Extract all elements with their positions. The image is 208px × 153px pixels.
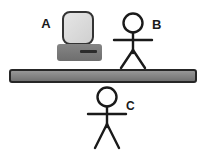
stick-figure-c-group [88,88,126,149]
computer-screen [63,12,93,44]
figure-b-head [124,14,143,33]
figure-c-leg-right [107,124,119,148]
computer-disk-slot-icon [80,50,97,53]
computer-group [57,12,102,61]
figure-c-leg-left [95,124,107,148]
stick-figure-b-group [114,14,152,69]
horizontal-bar-group [10,70,196,82]
diagram-canvas: A B C [0,0,208,153]
horizontal-bar [10,70,196,82]
figure-b-leg-left [121,50,133,68]
diagram-svg: A B C [0,0,208,153]
label-a: A [41,16,51,31]
label-b: B [152,17,161,32]
figure-c-head [98,88,117,107]
label-c: C [126,99,135,113]
figure-b-leg-right [133,50,145,68]
